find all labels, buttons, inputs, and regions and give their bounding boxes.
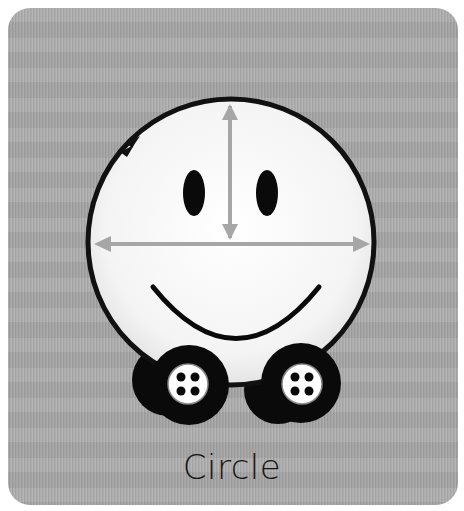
circle-illustration <box>0 0 464 511</box>
front-right-wheel-icon <box>261 343 341 423</box>
shape-caption: Circle <box>0 447 464 487</box>
right-eye-icon <box>256 170 278 216</box>
left-eye-icon <box>183 170 205 216</box>
front-left-wheel-icon <box>149 345 229 425</box>
